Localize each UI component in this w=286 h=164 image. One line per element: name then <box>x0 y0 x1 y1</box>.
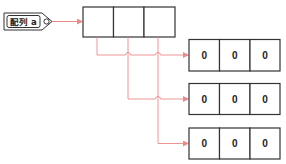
array-cell-value: 0 <box>262 94 268 105</box>
array-cell-value: 0 <box>201 50 207 61</box>
variable-tag: 配列 a <box>4 13 52 30</box>
outer-array-cell <box>114 7 145 37</box>
array-cell-value: 0 <box>262 138 268 149</box>
outer-array <box>83 7 175 37</box>
array-cell-value: 0 <box>232 94 238 105</box>
inner-array: 0 0 0 <box>189 40 280 72</box>
inner-array: 0 0 0 <box>189 128 280 159</box>
reference-dot-icon <box>44 19 49 24</box>
array-cell-value: 0 <box>232 50 238 61</box>
array-cell-value: 0 <box>232 138 238 149</box>
variable-tag-label: 配列 a <box>10 17 37 27</box>
outer-array-cell <box>83 7 114 37</box>
array-diagram: 配列 a 0 0 0 0 0 0 0 0 0 <box>0 0 286 164</box>
pointer-arrow <box>97 37 188 55</box>
inner-array: 0 0 0 <box>189 84 280 115</box>
outer-array-cell <box>144 7 175 37</box>
array-cell-value: 0 <box>262 50 268 61</box>
array-cell-value: 0 <box>201 138 207 149</box>
pointer-arrow <box>158 37 188 144</box>
array-cell-value: 0 <box>201 94 207 105</box>
